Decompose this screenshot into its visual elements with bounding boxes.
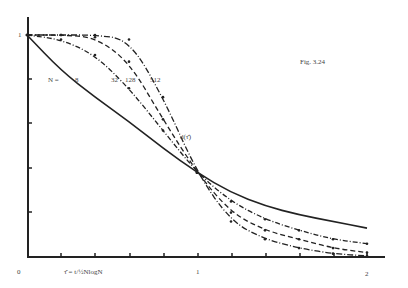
data-point bbox=[298, 238, 301, 241]
series-layer bbox=[26, 34, 369, 257]
legend-n32: 32 bbox=[111, 76, 118, 84]
data-point bbox=[264, 229, 267, 232]
data-point bbox=[128, 87, 131, 90]
data-point bbox=[298, 229, 301, 232]
legend-n8: 8 bbox=[75, 76, 79, 84]
data-point bbox=[94, 34, 97, 37]
curve-label: d(τ̂) bbox=[180, 133, 191, 141]
legend-prefix: N = bbox=[48, 76, 59, 84]
legend-n512: 512 bbox=[150, 76, 161, 84]
data-point bbox=[264, 218, 267, 221]
data-point bbox=[128, 60, 131, 63]
chart-canvas bbox=[0, 0, 408, 288]
data-point bbox=[332, 252, 335, 255]
data-point bbox=[162, 129, 165, 132]
series-n128 bbox=[27, 35, 367, 253]
data-point bbox=[60, 38, 63, 41]
x-tick-label-1: 1 bbox=[196, 268, 200, 276]
data-point bbox=[264, 238, 267, 241]
data-point bbox=[26, 34, 29, 37]
data-point bbox=[230, 220, 233, 223]
y-tick-label-1: 1 bbox=[18, 31, 22, 39]
data-point bbox=[94, 54, 97, 57]
legend-n128: 128 bbox=[125, 76, 136, 84]
data-point bbox=[162, 118, 165, 121]
data-point bbox=[94, 36, 97, 39]
data-point bbox=[298, 247, 301, 250]
x-tick-label-2: 2 bbox=[365, 270, 369, 278]
data-point bbox=[332, 247, 335, 250]
data-point bbox=[366, 255, 369, 258]
series-n32 bbox=[27, 35, 367, 244]
data-point bbox=[128, 38, 131, 41]
data-point bbox=[366, 251, 369, 254]
data-point bbox=[196, 171, 199, 174]
data-point bbox=[60, 34, 63, 37]
x-axis-label: τ̂ = t/½NlogN bbox=[64, 268, 102, 276]
figure-label: Fig. 3.24 bbox=[300, 58, 325, 66]
data-point bbox=[332, 238, 335, 241]
data-point bbox=[230, 200, 233, 203]
data-point bbox=[162, 96, 165, 99]
data-point bbox=[366, 242, 369, 245]
origin-label: 0 bbox=[17, 268, 21, 276]
data-point bbox=[230, 211, 233, 214]
series-n512 bbox=[27, 35, 367, 256]
